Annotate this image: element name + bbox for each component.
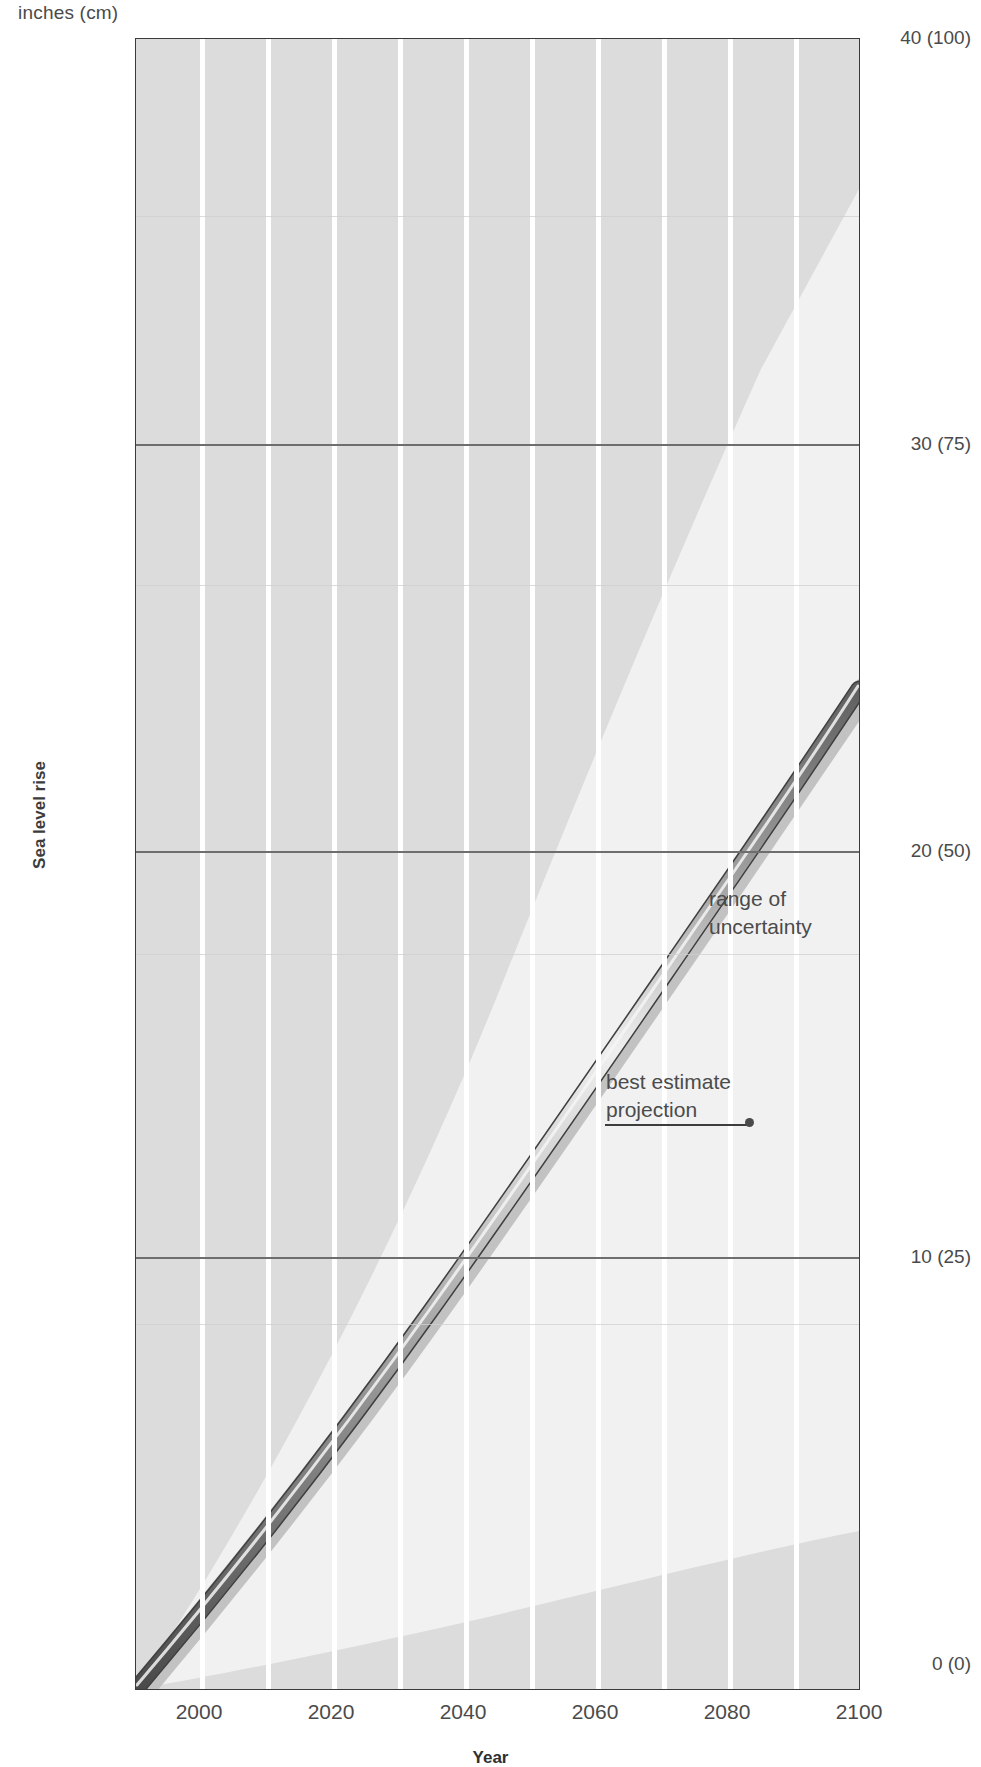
y-tick-label-10: 10 (25) [856, 1246, 981, 1268]
y-tick-label-0: 0 (0) [856, 1653, 981, 1675]
x-tick-label-2100: 2100 [836, 1700, 883, 1724]
y-axis-title: Sea level rise [30, 715, 50, 915]
best-estimate-marker-dot [745, 1118, 754, 1127]
vertical-gridline-2080 [728, 39, 733, 1689]
y-tick-label-40: 40 (100) [856, 27, 981, 49]
vertical-gridline-2000 [200, 39, 205, 1689]
horizontal-gridline-25 [136, 585, 859, 586]
chart-plot-svg [136, 39, 859, 1689]
horizontal-gridline-5 [136, 1324, 859, 1325]
y-tick-label-30: 30 (75) [856, 433, 981, 455]
horizontal-gridline-30 [136, 444, 859, 446]
x-tick-label-2040: 2040 [440, 1700, 487, 1724]
vertical-gridline-2050 [530, 39, 535, 1689]
x-tick-label-2000: 2000 [176, 1700, 223, 1724]
vertical-gridline-2040 [464, 39, 469, 1689]
vertical-gridline-2010 [266, 39, 271, 1689]
horizontal-gridline-15 [136, 954, 859, 955]
vertical-gridline-2030 [398, 39, 403, 1689]
x-tick-label-2020: 2020 [308, 1700, 355, 1724]
vertical-gridline-2020 [332, 39, 337, 1689]
plot-area: range of uncertainty best estimate proje… [135, 38, 860, 1690]
vertical-gridline-2090 [794, 39, 799, 1689]
annotation-range-of-uncertainty: range of uncertainty [709, 885, 859, 940]
y-tick-label-20: 20 (50) [856, 840, 981, 862]
annotation-best-estimate-projection: best estimate projection [606, 1068, 731, 1123]
annotation-leader-line [605, 1124, 751, 1126]
horizontal-gridline-10 [136, 1257, 859, 1259]
x-tick-label-2060: 2060 [572, 1700, 619, 1724]
horizontal-gridline-35 [136, 216, 859, 217]
vertical-gridline-2060 [596, 39, 601, 1689]
vertical-gridline-2070 [662, 39, 667, 1689]
horizontal-gridline-20 [136, 851, 859, 853]
sea-level-rise-chart: inches (cm) Sea level rise 40 (100) 30 (… [0, 0, 981, 1767]
x-axis-title: Year [0, 1748, 981, 1767]
y-axis-unit-header: inches (cm) [18, 2, 118, 24]
x-tick-label-2080: 2080 [704, 1700, 751, 1724]
